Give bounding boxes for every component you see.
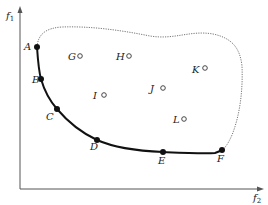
- y-axis-arrow-icon: [18, 6, 23, 13]
- feasible-region-boundary: [37, 27, 242, 150]
- interior-point-label: I: [92, 90, 98, 101]
- diagram-svg: f1 f2 ABCDEF GHIJKL: [0, 0, 268, 205]
- pareto-point-label: A: [23, 41, 31, 52]
- pareto-point-label: C: [46, 111, 54, 122]
- interior-point-label: G: [68, 51, 76, 62]
- pareto-point-c: [54, 106, 60, 112]
- interior-point-label: H: [115, 51, 125, 62]
- x-axis-label: f2: [252, 192, 261, 205]
- interior-point-label: L: [172, 114, 180, 125]
- interior-point-label: K: [191, 64, 200, 75]
- y-axis-label: f1: [5, 10, 14, 23]
- pareto-point-label: D: [89, 141, 98, 152]
- interior-point-g: [78, 54, 83, 59]
- pareto-front-diagram: f1 f2 ABCDEF GHIJKL: [0, 0, 268, 205]
- axes: f1 f2: [5, 6, 264, 205]
- pareto-point-a: [34, 44, 40, 50]
- interior-point-label: J: [148, 83, 155, 94]
- pareto-point-label: E: [157, 155, 166, 166]
- pareto-front-curve: [37, 47, 222, 153]
- interior-point-h: [127, 54, 132, 59]
- x-axis-arrow-icon: [257, 187, 264, 192]
- interior-points: GHIJKL: [68, 51, 207, 125]
- pareto-point-label: B: [31, 74, 39, 85]
- interior-point-k: [203, 66, 208, 71]
- interior-point-i: [102, 93, 107, 98]
- pareto-point-label: F: [216, 153, 225, 164]
- interior-point-j: [161, 86, 166, 91]
- interior-point-l: [182, 117, 187, 122]
